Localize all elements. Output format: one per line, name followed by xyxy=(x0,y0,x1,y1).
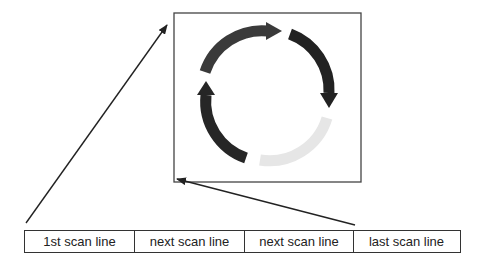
left-arc-arrow-icon xyxy=(206,95,246,158)
top-arc-arrow-icon xyxy=(205,31,268,72)
scan-line-cell: last scan line xyxy=(354,231,459,252)
right-arc-arrow-icon xyxy=(290,34,329,93)
right-arrowhead-icon xyxy=(320,93,338,108)
circular-arrows xyxy=(197,22,338,161)
top-arrowhead-icon xyxy=(266,22,282,40)
left-arrowhead-icon xyxy=(197,81,215,95)
scan-line-cell: next scan line xyxy=(135,231,245,252)
scan-line-cell: next scan line xyxy=(245,231,354,252)
last-scan-line-arrow xyxy=(177,179,355,225)
scan-line-cell: 1st scan line xyxy=(25,231,135,252)
first-scan-line-arrow xyxy=(26,25,167,223)
scan-line-table: 1st scan line next scan line next scan l… xyxy=(24,230,461,253)
bottom-arc-arrow-icon xyxy=(260,118,327,161)
